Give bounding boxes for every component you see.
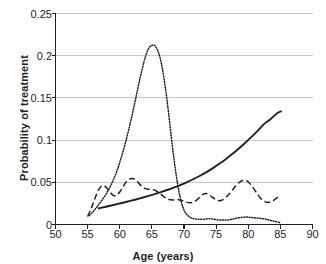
x-axis-title: Age (years) — [0, 250, 326, 262]
x-tick-label: 85 — [265, 228, 295, 240]
series-dotted-curve — [90, 45, 281, 223]
x-tick-label: 75 — [201, 228, 231, 240]
axis-lines — [56, 14, 313, 225]
x-tick-label: 70 — [169, 228, 199, 240]
x-tick-label: 50 — [41, 228, 71, 240]
axis-ticks — [52, 14, 313, 229]
y-tick-label: 0.25 — [12, 8, 52, 20]
x-tick-label: 65 — [137, 228, 167, 240]
series-solid-curve — [98, 111, 282, 208]
data-series — [88, 45, 282, 223]
x-tick-label: 60 — [105, 228, 135, 240]
y-axis-title: Probability of treatment — [18, 38, 30, 198]
x-tick-label: 80 — [233, 228, 263, 240]
x-tick-label: 55 — [73, 228, 103, 240]
x-tick-label: 90 — [298, 228, 326, 240]
chart-container: 00.050.10.150.20.25 505560657075808590 A… — [0, 0, 326, 264]
gridlines — [56, 14, 313, 225]
